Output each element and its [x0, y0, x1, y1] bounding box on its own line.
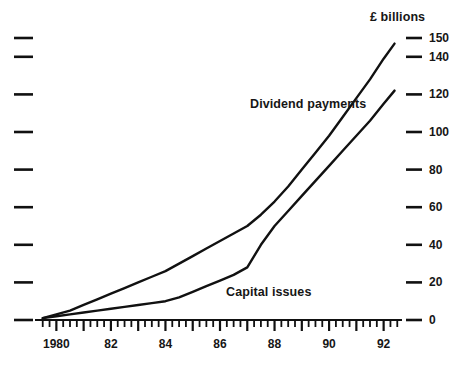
y-tick-label-100: 100 [429, 125, 459, 139]
left-axis-tick-marks [14, 38, 33, 320]
series-label-capital-issues: Capital issues [226, 285, 311, 299]
y-tick-label-60: 60 [429, 200, 459, 214]
series-label-dividend-payments: Dividend payments [250, 97, 366, 111]
y-tick-label-120: 120 [429, 87, 459, 101]
x-tick-label-88: 88 [268, 337, 281, 351]
series-line-dividend-payments [43, 44, 395, 318]
x-tick-label-82: 82 [104, 337, 117, 351]
y-axis-title: £ billions [370, 10, 425, 24]
x-axis-tick-marks [43, 320, 398, 331]
chart-plot-area [0, 0, 462, 368]
x-tick-label-92: 92 [377, 337, 390, 351]
x-tick-label-86: 86 [213, 337, 226, 351]
y-tick-label-40: 40 [429, 238, 459, 252]
x-tick-label-1980: 1980 [43, 337, 70, 351]
y-tick-label-80: 80 [429, 163, 459, 177]
chart-container: £ billions 020406080100120140150 1980828… [0, 0, 462, 368]
y-tick-label-20: 20 [429, 275, 459, 289]
y-tick-label-150: 150 [429, 31, 459, 45]
series-line-capital-issues [43, 91, 395, 318]
x-tick-label-90: 90 [322, 337, 335, 351]
y-tick-label-140: 140 [429, 50, 459, 64]
x-tick-label-84: 84 [159, 337, 172, 351]
y-tick-label-0: 0 [429, 313, 459, 327]
right-axis-tick-marks [406, 38, 422, 320]
data-series-lines [43, 44, 395, 318]
